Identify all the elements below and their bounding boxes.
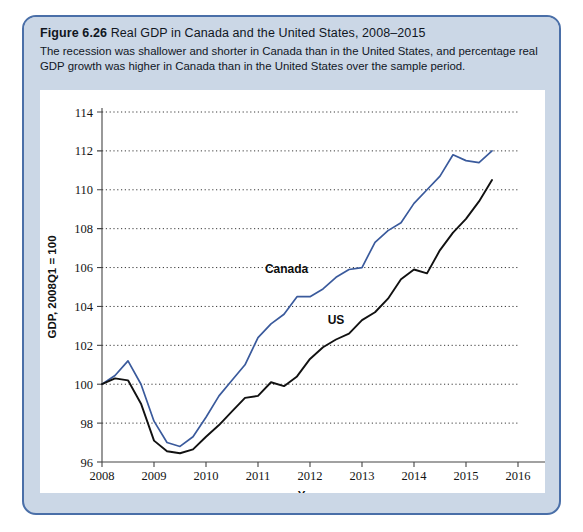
y-tick-label: 98: [81, 417, 94, 431]
series-label-canada: Canada: [265, 262, 309, 276]
x-tick-label: 2010: [194, 469, 219, 483]
x-tick-label: 2012: [298, 469, 323, 483]
x-tick-label: 2008: [90, 469, 115, 483]
series-label-us: US: [328, 313, 345, 327]
y-tick-label: 106: [74, 261, 93, 275]
x-tick-label: 2014: [402, 469, 428, 483]
y-tick-label: 112: [75, 144, 93, 158]
x-axis-title: Year: [298, 489, 323, 493]
series-line-canada: [102, 151, 492, 447]
y-tick-label: 96: [81, 456, 94, 470]
x-tick-label: 2009: [142, 469, 167, 483]
x-tick-label: 2011: [246, 469, 271, 483]
x-tick-label: 2015: [454, 469, 479, 483]
figure-card: Figure 6.26 Real GDP in Canada and the U…: [22, 15, 561, 515]
figure-header: Figure 6.26 Real GDP in Canada and the U…: [24, 17, 559, 89]
plot-panel: 9698100102104106108110112114200820092010…: [40, 90, 545, 493]
x-tick-label: 2016: [506, 469, 531, 483]
y-tick-label: 102: [74, 339, 93, 353]
figure-title: Real GDP in Canada and the United States…: [111, 26, 426, 40]
y-tick-label: 104: [74, 300, 94, 314]
y-tick-label: 108: [74, 222, 93, 236]
figure-title-line: Figure 6.26 Real GDP in Canada and the U…: [40, 26, 543, 40]
figure-caption: The recession was shallower and shorter …: [40, 44, 543, 74]
line-chart: 9698100102104106108110112114200820092010…: [40, 90, 545, 493]
y-tick-label: 110: [75, 183, 93, 197]
x-tick-label: 2013: [350, 469, 375, 483]
y-axis-title: GDP, 2008Q1 = 100: [46, 235, 58, 338]
y-tick-label: 114: [75, 106, 94, 120]
series-line-us: [102, 180, 492, 453]
y-tick-label: 100: [74, 378, 93, 392]
figure-number: Figure 6.26: [40, 26, 107, 40]
